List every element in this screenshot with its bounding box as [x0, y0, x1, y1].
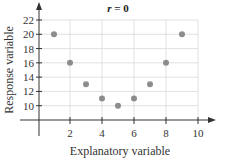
data-points — [51, 31, 185, 108]
data-point — [83, 81, 89, 87]
data-point — [51, 31, 57, 37]
y-tick-label: 10 — [23, 100, 35, 112]
y-tick-label: 16 — [23, 57, 35, 69]
y-tick-label: 12 — [23, 85, 34, 97]
data-point — [179, 31, 185, 37]
y-tick-label: 14 — [23, 71, 35, 83]
y-axis-arrow-icon — [36, 2, 42, 10]
y-axis-title: Response variable — [2, 26, 16, 114]
data-point — [67, 60, 73, 66]
x-tick-label: 2 — [67, 127, 73, 139]
x-tick-label: 6 — [131, 127, 137, 139]
axes — [20, 2, 216, 136]
y-tick-label: 20 — [23, 28, 35, 40]
y-tick-label: 22 — [23, 14, 34, 26]
data-point — [131, 96, 137, 102]
x-axis-arrow-icon — [208, 117, 216, 123]
x-tick-label: 4 — [99, 127, 105, 139]
x-tick-label: 8 — [163, 127, 169, 139]
scatter-chart: 24681010121416182022 r = 0 Explanatory v… — [0, 0, 226, 163]
data-point — [115, 103, 121, 109]
title-rest: = 0 — [112, 2, 130, 14]
data-point — [163, 60, 169, 66]
data-point — [147, 81, 153, 87]
chart-title: r = 0 — [107, 2, 129, 14]
data-point — [99, 96, 105, 102]
x-axis-title: Explanatory variable — [70, 144, 170, 158]
y-tick-label: 18 — [23, 43, 35, 55]
x-tick-label: 10 — [193, 127, 205, 139]
